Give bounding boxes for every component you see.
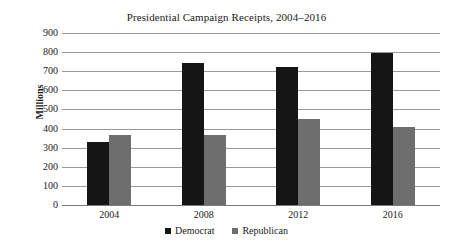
x-axis-tick-label-2008: 2008	[164, 209, 244, 220]
y-axis-tick-label: 0	[2, 200, 58, 210]
y-axis-tick-label: 100	[2, 181, 58, 191]
y-axis-tick-label: 500	[2, 104, 58, 114]
x-axis-tick-label-2016: 2016	[353, 209, 433, 220]
y-axis-tick-label: 700	[2, 66, 58, 76]
x-axis-line	[62, 205, 440, 206]
bar-democrat-2016	[371, 53, 393, 206]
bar-republican-2012	[298, 119, 320, 205]
bar-republican-2004	[109, 135, 131, 205]
y-axis-tick-labels: 9008007006005004003002001000	[0, 33, 58, 205]
y-axis-tick-label: 800	[2, 47, 58, 57]
bar-chart: Presidential Campaign Receipts, 2004–201…	[0, 0, 453, 247]
legend-swatch-icon	[232, 228, 238, 234]
legend-swatch-icon	[165, 228, 171, 234]
y-axis-tick-label: 900	[2, 28, 58, 38]
y-axis-tick-label: 300	[2, 143, 58, 153]
y-axis-tick-label: 400	[2, 124, 58, 134]
x-axis-tick-label-2004: 2004	[69, 209, 149, 220]
bar-democrat-2004	[87, 142, 109, 205]
y-axis-tick-label: 600	[2, 85, 58, 95]
gridline	[62, 33, 440, 34]
bar-republican-2016	[393, 127, 415, 205]
y-axis-tick-label: 200	[2, 162, 58, 172]
legend-label: Republican	[242, 225, 288, 236]
x-axis-tick-label-2012: 2012	[258, 209, 338, 220]
chart-legend: DemocratRepublican	[0, 225, 453, 236]
plot-area	[62, 33, 440, 205]
bar-democrat-2012	[276, 67, 298, 205]
legend-item-democrat[interactable]: Democrat	[165, 225, 214, 236]
bar-democrat-2008	[182, 63, 204, 205]
x-axis-tick-labels: 2004200820122016	[62, 209, 440, 225]
bar-republican-2008	[204, 135, 226, 205]
chart-title: Presidential Campaign Receipts, 2004–201…	[0, 11, 453, 23]
legend-item-republican[interactable]: Republican	[232, 225, 288, 236]
legend-label: Democrat	[175, 225, 214, 236]
